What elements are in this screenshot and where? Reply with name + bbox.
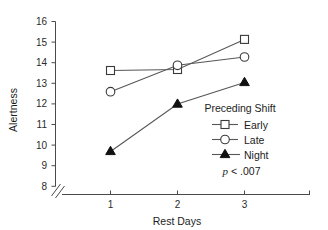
data-point-early-1 <box>107 67 115 75</box>
data-point-night-1 <box>106 146 116 154</box>
y-tick-9: 9 <box>41 160 55 171</box>
p-symbol: p <box>222 165 229 177</box>
y-tick-label-14: 14 <box>36 57 48 68</box>
data-point-late-2 <box>173 61 182 70</box>
data-point-late-1 <box>106 87 115 96</box>
data-point-late-3 <box>240 53 249 62</box>
y-tick-label-11: 11 <box>37 119 48 130</box>
y-tick-11: 11 <box>37 119 56 130</box>
y-tick-label-15: 15 <box>36 37 48 48</box>
x-axis-title: Rest Days <box>153 215 201 227</box>
x-tick-label-3: 3 <box>242 199 248 210</box>
legend-item-early[interactable]: Early <box>212 119 269 131</box>
legend-label-early: Early <box>244 119 269 131</box>
data-point-night-3 <box>240 77 250 85</box>
y-tick-label-9: 9 <box>41 160 47 171</box>
y-tick-10: 10 <box>36 140 56 151</box>
y-tick-14: 14 <box>36 57 56 68</box>
p-value-annotation: p < .007 <box>222 165 261 177</box>
legend-item-late[interactable]: Late <box>212 134 265 146</box>
p-value-text: < .007 <box>231 165 261 177</box>
series-late <box>106 53 249 96</box>
y-tick-13: 13 <box>36 78 56 89</box>
data-point-early-3 <box>241 35 249 43</box>
x-tick-label-1: 1 <box>108 199 114 210</box>
x-tick-3: 3 <box>242 191 248 211</box>
x-tick-1: 1 <box>108 191 114 211</box>
legend-title: Preceding Shift <box>204 102 275 114</box>
x-tick-label-2: 2 <box>175 199 181 210</box>
y-tick-label-12: 12 <box>36 98 48 109</box>
legend-label-late: Late <box>244 134 265 146</box>
y-tick-label-13: 13 <box>36 78 48 89</box>
y-tick-8: 8 <box>41 181 55 192</box>
y-tick-16: 16 <box>36 16 56 27</box>
y-tick-label-8: 8 <box>41 181 47 192</box>
legend-marker-open-square <box>221 121 229 129</box>
legend-marker-open-circle <box>221 135 230 144</box>
legend-marker-filled-triangle <box>220 149 230 157</box>
line-chart: Alertness 16 15 14 13 12 <box>0 0 328 230</box>
legend-item-night[interactable]: Night <box>212 149 269 161</box>
y-axis-title: Alertness <box>7 88 19 132</box>
legend-label-night: Night <box>244 149 269 161</box>
y-tick-label-10: 10 <box>36 140 48 151</box>
y-tick-15: 15 <box>36 37 56 48</box>
legend: Preceding Shift Early Late Night p < .00… <box>204 102 275 177</box>
chart-figure: Alertness 16 15 14 13 12 <box>0 0 328 230</box>
y-tick-12: 12 <box>36 98 56 109</box>
x-tick-2: 2 <box>175 191 181 211</box>
y-tick-label-16: 16 <box>36 16 48 27</box>
